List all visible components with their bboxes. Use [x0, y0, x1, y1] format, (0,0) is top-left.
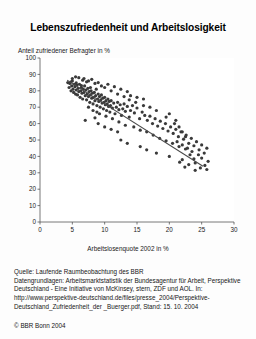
copyright-note: © BBR Bonn 2004	[14, 322, 66, 329]
y-tick-label: 0	[32, 218, 36, 225]
y-tick-label: 10	[29, 202, 37, 209]
y-tick-label: 80	[29, 87, 37, 94]
y-tick-label: 60	[29, 120, 37, 127]
source-line-2: Datengrundlagen: Arbeitsmarktstatistik d…	[14, 277, 242, 310]
x-tick-label: 15	[133, 226, 141, 233]
x-tick-label: 10	[101, 226, 109, 233]
y-tick-label: 40	[29, 153, 37, 160]
y-tick-label: 30	[29, 169, 37, 176]
y-tick-label: 20	[29, 185, 37, 192]
chart-svg: 0102030405060708090100051015202530	[18, 54, 238, 240]
y-axis-label: Anteil zufriedener Befragter in %	[18, 47, 110, 54]
page-title: Lebenszufriedenheit und Arbeitslosigkeit	[0, 22, 256, 33]
x-tick-label: 5	[71, 226, 75, 233]
y-tick-label: 90	[29, 71, 37, 78]
y-tick-label: 70	[29, 103, 37, 110]
x-axis-label: Arbeitslosenquote 2002 in %	[0, 245, 256, 252]
scatter-plot: 0102030405060708090100051015202530	[18, 54, 238, 240]
x-tick-label: 25	[198, 226, 206, 233]
source-note: Quelle: Laufende Raumbeobachtung des BBR…	[14, 268, 246, 311]
y-tick-label: 50	[29, 136, 37, 143]
x-tick-label: 20	[166, 226, 174, 233]
source-line-1: Quelle: Laufende Raumbeobachtung des BBR	[14, 268, 144, 275]
chart-page: Lebenszufriedenheit und Arbeitslosigkeit…	[0, 0, 256, 339]
x-tick-label: 0	[38, 226, 42, 233]
y-tick-label: 100	[25, 54, 36, 61]
x-tick-label: 30	[230, 226, 238, 233]
